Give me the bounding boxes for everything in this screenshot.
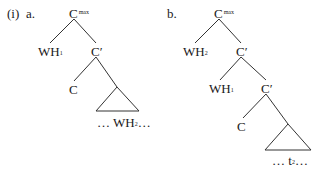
text-post: … bbox=[295, 153, 308, 168]
tree-a-head-node: C bbox=[69, 83, 78, 96]
text-subscript: 2 bbox=[292, 159, 295, 165]
edge-b-cbar-cbar2 bbox=[241, 57, 266, 80]
tree-a-cbar-node: C′ bbox=[91, 45, 103, 58]
triangle-a bbox=[96, 87, 139, 111]
node-base: C bbox=[214, 6, 223, 21]
edge-b-cbar-spec2 bbox=[220, 57, 241, 80]
node-superscript: max bbox=[224, 9, 234, 15]
node-subscript: 2 bbox=[205, 50, 208, 56]
node-subscript: 1 bbox=[231, 87, 234, 93]
tree-b-spec-node: WH2 bbox=[183, 45, 208, 58]
tree-b-cbar-node: C′ bbox=[236, 45, 248, 58]
text-post: … bbox=[138, 115, 151, 130]
tree-a-spec-node: WH1 bbox=[38, 45, 63, 58]
edge-b-cbar2-comp bbox=[266, 94, 288, 124]
node-subscript: 1 bbox=[60, 50, 63, 56]
tree-b-spec2-node: WH1 bbox=[209, 82, 234, 95]
node-base: WH bbox=[183, 44, 205, 59]
edge-a-cbar-comp bbox=[96, 57, 117, 87]
text-subscript: 2 bbox=[135, 121, 138, 127]
edge-b-root-cbar bbox=[219, 19, 241, 43]
tree-a-label: a. bbox=[26, 7, 35, 20]
tree-b-root-node: Cmax bbox=[214, 7, 234, 20]
triangle-b bbox=[265, 124, 311, 150]
tree-a-root-node: Cmax bbox=[69, 7, 89, 20]
edge-a-root-spec bbox=[50, 19, 74, 43]
tree-b-head-node: C bbox=[237, 120, 246, 133]
edge-a-root-cbar bbox=[74, 19, 96, 43]
edge-b-root-spec bbox=[195, 19, 219, 43]
text-pre: … t bbox=[272, 153, 292, 168]
tree-b-label: b. bbox=[167, 7, 177, 20]
node-base: C bbox=[69, 6, 78, 21]
text-pre: … WH bbox=[97, 115, 135, 130]
node-superscript: max bbox=[79, 9, 89, 15]
node-base: WH bbox=[38, 44, 60, 59]
edge-b-cbar2-head bbox=[243, 94, 266, 118]
tree-b-triangle-text: … t2… bbox=[272, 154, 308, 167]
example-number: (i) bbox=[7, 7, 19, 20]
edge-a-cbar-head bbox=[74, 57, 96, 81]
node-base: WH bbox=[209, 81, 231, 96]
tree-b-cbar2-node: C′ bbox=[261, 82, 273, 95]
tree-a-triangle-text: … WH2… bbox=[97, 116, 151, 129]
